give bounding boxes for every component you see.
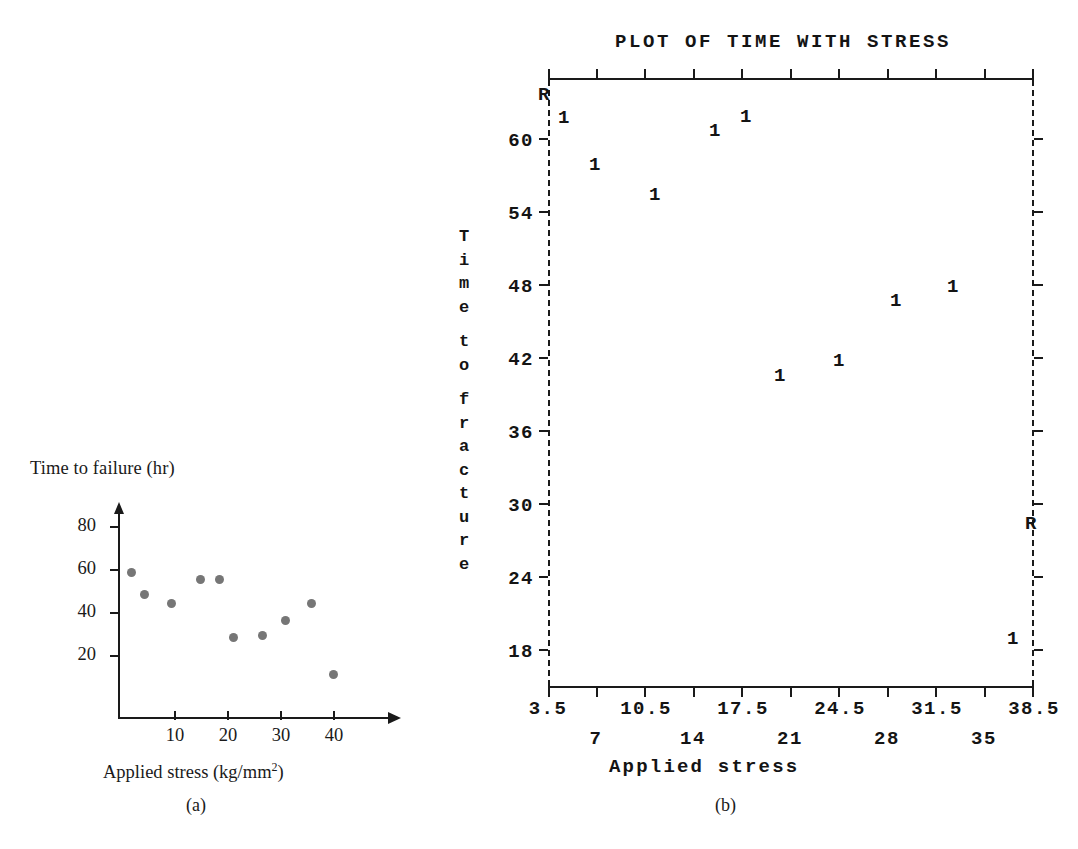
panel-b-plot-frame: R R 1 1 1 1 1 1 1 1 1 1	[548, 78, 1034, 688]
panel-a-data-point	[196, 575, 205, 584]
panel-a-data-point	[229, 633, 238, 642]
panel-a-data-point	[167, 599, 176, 608]
panel-b-data-point: 1	[1007, 630, 1018, 649]
panel-b-data-point: 1	[649, 186, 660, 205]
panel-b-caption: (b)	[715, 795, 736, 816]
panel-b-x-tick-top	[741, 69, 743, 78]
panel-b-range-marker-right: R	[1025, 515, 1036, 534]
panel-b-y-tick-label: 36	[488, 422, 534, 444]
y-title-word-gap	[454, 377, 474, 388]
panel-a-caption: (a)	[186, 795, 206, 816]
panel-b-x-tick-bottom	[984, 688, 986, 697]
y-title-char: r	[454, 412, 474, 436]
panel-a-plot-area: 80 60 40 20 10 20 30 40	[118, 513, 400, 723]
panel-b-y-tick-left	[539, 649, 548, 651]
panel-b-x-tick-bottom	[1032, 688, 1034, 697]
panel-a-data-point	[281, 616, 290, 625]
panel-b-x-tick-label: 21	[770, 728, 810, 750]
panel-b-y-tick-right	[1034, 576, 1043, 578]
panel-b-x-tick-top	[838, 69, 840, 78]
panel-a-x-tick-label: 20	[208, 725, 248, 746]
panel-b-y-tick-label: 48	[488, 276, 534, 298]
y-title-char: i	[454, 249, 474, 273]
panel-a-y-tick-label: 60	[56, 558, 96, 579]
panel-a-x-axis-title-main: Applied stress (kg/mm	[103, 762, 272, 782]
panel-b-y-tick-label: 42	[488, 349, 534, 371]
panel-b-data-point: 1	[833, 352, 844, 371]
panel-a-x-axis-title: Applied stress (kg/mm2)	[103, 760, 284, 783]
panel-a-x-tick-label: 30	[261, 725, 301, 746]
panel-b-x-tick-label: 17.5	[704, 698, 782, 720]
y-title-char: f	[454, 388, 474, 412]
y-title-char: c	[454, 459, 474, 483]
panel-a-scatter: Time to failure (hr) 80 60 40 20 10 20 3…	[0, 0, 440, 849]
panel-a-y-axis-title: Time to failure (hr)	[30, 458, 175, 479]
panel-b-y-axis-dashed-right	[1032, 80, 1034, 686]
panel-b-data-point: 1	[947, 278, 958, 297]
y-title-char: m	[454, 272, 474, 296]
panel-a-y-tick-label: 80	[56, 515, 96, 536]
panel-b-data-point: 1	[589, 156, 600, 175]
y-title-char: e	[454, 296, 474, 320]
panel-b-range-marker-top-left: R	[538, 86, 549, 105]
y-title-char: t	[454, 330, 474, 354]
panel-b-y-tick-label: 24	[488, 568, 534, 590]
panel-b-data-point: 1	[558, 109, 569, 128]
panel-a-y-tick-label: 40	[56, 601, 96, 622]
panel-b-x-tick-label: 28	[867, 728, 907, 750]
panel-b-x-tick-bottom	[790, 688, 792, 697]
y-title-char: t	[454, 482, 474, 506]
panel-b-y-tick-label: 30	[488, 495, 534, 517]
panel-b-frame-top	[548, 78, 1034, 80]
panel-b-x-tick-label: 3.5	[518, 698, 578, 720]
panel-b-y-axis-title: T i m e t o f r a c t u r e	[454, 225, 474, 576]
panel-b-x-tick-bottom	[548, 688, 550, 697]
y-title-char: o	[454, 354, 474, 378]
panel-a-x-tick	[280, 711, 282, 720]
panel-b-x-tick-top	[790, 69, 792, 78]
panel-b-y-tick-right	[1034, 430, 1043, 432]
panel-a-data-point	[215, 575, 224, 584]
y-title-char: a	[454, 435, 474, 459]
panel-b-x-tick-label: 14	[673, 728, 713, 750]
panel-a-data-point	[258, 631, 267, 640]
y-title-word-gap	[454, 319, 474, 330]
panel-b-y-tick-left	[539, 284, 548, 286]
panel-b-y-tick-right	[1034, 649, 1043, 651]
panel-b-x-tick-label: 35	[964, 728, 1004, 750]
panel-a-y-tick	[110, 569, 120, 571]
panel-b-x-tick-top	[1032, 69, 1034, 78]
panel-b-y-tick-right	[1034, 284, 1043, 286]
panel-b-x-tick-label: 7	[576, 728, 616, 750]
panel-b-y-axis-dashed-left	[548, 80, 550, 686]
panel-b-x-tick-bottom	[693, 688, 695, 697]
panel-b-y-tick-label: 54	[488, 203, 534, 225]
panel-a-y-tick	[110, 655, 120, 657]
panel-b-x-axis-title: Applied stress	[609, 756, 799, 778]
panel-b-x-tick-top	[984, 69, 986, 78]
panel-a-x-axis-title-tail: )	[278, 762, 284, 782]
panel-b-x-tick-label: 38.5	[995, 698, 1073, 720]
panel-a-x-tick	[333, 711, 335, 720]
y-title-char: e	[454, 553, 474, 577]
panel-b-y-tick-left	[539, 138, 548, 140]
panel-b-data-point: 1	[890, 292, 901, 311]
panel-b-x-tick-bottom	[935, 688, 937, 697]
panel-b-y-tick-left	[539, 357, 548, 359]
panel-b-data-point: 1	[740, 108, 751, 127]
y-title-char: T	[454, 225, 474, 249]
panel-b-y-tick-left	[539, 211, 548, 213]
panel-a-data-point	[307, 599, 316, 608]
panel-a-y-axis-line	[118, 513, 120, 719]
panel-b-lineprinter-scatter: PLOT OF TIME WITH STRESS T i m e t o f r…	[440, 0, 1078, 849]
panel-b-y-tick-label: 18	[488, 641, 534, 663]
panel-b-title: PLOT OF TIME WITH STRESS	[615, 31, 951, 53]
panel-a-x-axis-line	[118, 717, 390, 719]
panel-b-y-tick-left	[539, 430, 548, 432]
panel-b-x-tick-bottom	[887, 688, 889, 697]
panel-a-y-tick	[110, 612, 120, 614]
panel-b-y-tick-right	[1034, 503, 1043, 505]
panel-b-x-tick-label: 24.5	[801, 698, 879, 720]
y-title-char: r	[454, 529, 474, 553]
panel-b-x-tick-bottom	[644, 688, 646, 697]
